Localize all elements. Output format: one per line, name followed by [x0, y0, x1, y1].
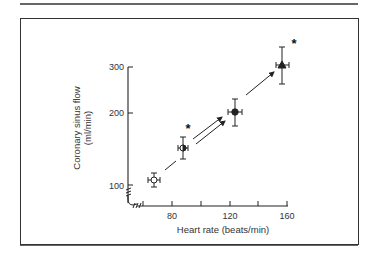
arrow-to-last [246, 72, 274, 95]
double-arrow-2 [196, 121, 225, 144]
plot-area: 300 200 100 80 120 160 Heart rate (beats… [71, 36, 297, 235]
x-tick-label-80: 80 [167, 211, 177, 221]
figure: 300 200 100 80 120 160 Heart rate (beats… [0, 0, 377, 261]
filled-circle-marker [232, 109, 238, 115]
data-point-1 [148, 173, 160, 187]
y-axis-label-line1: Coronary sinus flow [71, 86, 82, 170]
y-axis-label-line2: (ml/min) [82, 111, 93, 145]
x-tick-label-120: 120 [222, 211, 237, 221]
x-tick-label-160: 160 [279, 211, 294, 221]
open-circle-marker [151, 177, 157, 183]
data-point-3 [228, 99, 242, 126]
y-tick-label-100: 100 [109, 181, 124, 191]
y-axis-label: Coronary sinus flow (ml/min) [71, 86, 93, 170]
data-point-4 [276, 47, 289, 84]
y-tick-label-200: 200 [109, 108, 124, 118]
asterisk-point-4: * [291, 36, 297, 51]
double-arrow-1 [193, 117, 222, 139]
x-axis-label: Heart rate (beats/min) [177, 224, 269, 235]
asterisk-point-2: * [185, 121, 191, 136]
data-point-2 [178, 137, 188, 159]
y-tick-label-300: 300 [109, 62, 124, 72]
dashed-connector [165, 161, 176, 170]
